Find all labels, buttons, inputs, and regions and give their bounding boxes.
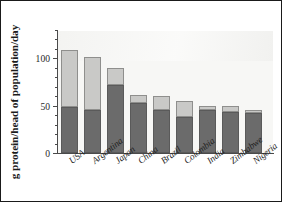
bar-nigeria <box>245 110 262 153</box>
y-axis-major-tick <box>53 58 58 59</box>
y-axis-minor-tick <box>55 87 58 88</box>
bar-segment-lower <box>199 110 216 153</box>
y-axis-tick-label: 100 <box>36 53 50 64</box>
y-axis-minor-tick <box>55 30 58 31</box>
chart-figure-border: g protein/head of population/day 050100 … <box>0 0 282 202</box>
bar-segment-lower <box>107 85 124 153</box>
bar-argentina <box>84 57 101 153</box>
y-axis-minor-tick <box>55 39 58 40</box>
bar-segment-lower <box>245 113 262 153</box>
bar-segment-lower <box>130 103 147 153</box>
bar-segment-upper <box>176 101 193 117</box>
x-axis-line <box>57 153 274 154</box>
bar-colombia <box>176 101 193 153</box>
y-axis-minor-tick <box>55 144 58 145</box>
y-axis-minor-tick <box>55 125 58 126</box>
bar-segment-lower <box>222 112 239 153</box>
bar-segment-upper <box>84 57 101 110</box>
y-axis-minor-tick <box>55 49 58 50</box>
y-axis-major-tick <box>53 153 58 154</box>
bar-segment-lower <box>153 110 170 153</box>
bar-segment-lower <box>176 117 193 153</box>
bar-segment-lower <box>61 107 78 153</box>
bar-usa <box>61 50 78 153</box>
bar-china <box>130 95 147 153</box>
y-axis-minor-tick <box>55 96 58 97</box>
y-axis-tick-label: 50 <box>40 100 50 111</box>
bar-brazil <box>153 96 170 153</box>
bar-segment-upper <box>61 50 78 107</box>
y-axis-tick-label: 0 <box>45 148 50 159</box>
y-axis-minor-tick <box>55 77 58 78</box>
bar-zimbabwe <box>222 106 239 153</box>
y-axis-minor-tick <box>55 115 58 116</box>
bar-japan <box>107 68 124 154</box>
bar-segment-upper <box>130 95 147 103</box>
bar-segment-upper <box>153 96 170 110</box>
bar-segment-lower <box>84 110 101 153</box>
bar-india <box>199 106 216 154</box>
y-axis-minor-tick <box>55 134 58 135</box>
y-axis-minor-tick <box>55 68 58 69</box>
y-axis-ticks: 050100 <box>1 1 58 202</box>
bar-segment-upper <box>107 68 124 85</box>
y-axis-major-tick <box>53 106 58 107</box>
